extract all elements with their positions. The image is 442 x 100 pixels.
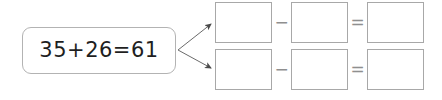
- equals-operator-row1: =: [348, 2, 367, 43]
- source-equation-text: 35+26=61: [39, 40, 158, 61]
- answer-box-row2-col2[interactable]: [291, 49, 348, 90]
- worksheet-canvas: 35+26=61 − = − =: [0, 0, 442, 100]
- minus-operator-row2: −: [272, 49, 291, 90]
- arrow-to-bottom-row: [178, 50, 211, 68]
- answer-row-1: − =: [215, 2, 425, 43]
- answer-box-row1-col3[interactable]: [367, 2, 424, 43]
- arrow-to-top-row: [178, 24, 211, 50]
- answer-box-row1-col2[interactable]: [291, 2, 348, 43]
- equals-operator-row2: =: [348, 49, 367, 90]
- answer-box-row2-col1[interactable]: [215, 49, 272, 90]
- answer-box-row1-col1[interactable]: [215, 2, 272, 43]
- source-equation-card: 35+26=61: [22, 27, 176, 74]
- answer-row-2: − =: [215, 49, 425, 90]
- minus-operator-row1: −: [272, 2, 291, 43]
- answer-box-row2-col3[interactable]: [367, 49, 424, 90]
